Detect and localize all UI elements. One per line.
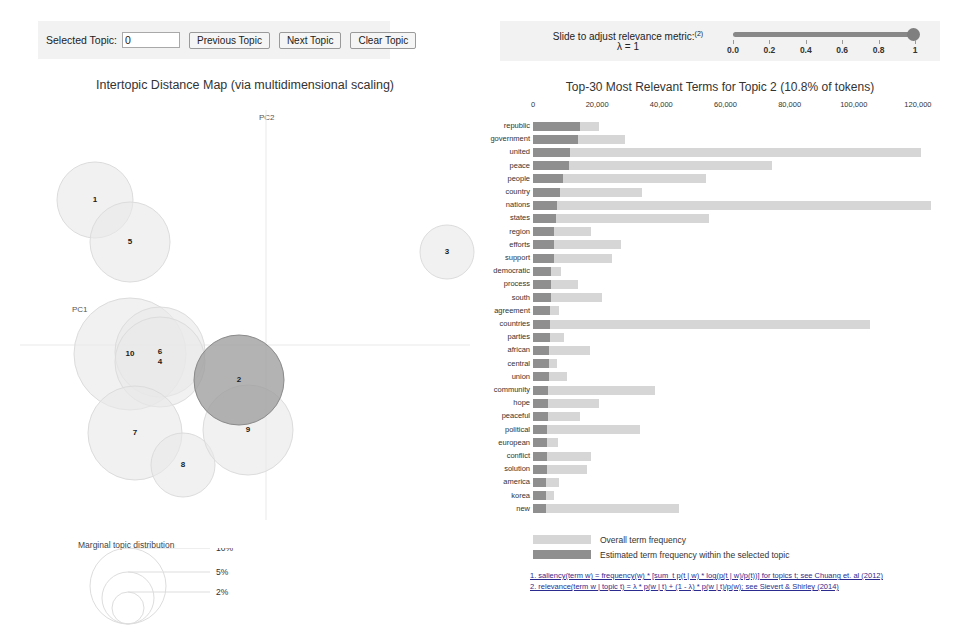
bar-row[interactable]: government [470,133,970,146]
lambda-tick-label: 0.2 [763,45,775,55]
bar-row[interactable]: european [470,437,970,450]
bar-row[interactable]: korea [470,490,970,503]
bar-term-label[interactable]: states [470,213,530,222]
bar-term-label[interactable]: korea [470,491,530,500]
bar-row[interactable]: region [470,226,970,239]
bar-row[interactable]: country [470,186,970,199]
next-topic-button[interactable]: Next Topic [279,32,342,49]
lambda-value-label: λ = 1 [528,41,728,52]
bar-term-label[interactable]: nations [470,200,530,209]
bar-row[interactable]: support [470,252,970,265]
bar-topic-frequency [533,425,547,434]
bar-topic-frequency [533,333,550,342]
bar-row[interactable]: people [470,173,970,186]
bar-term-label[interactable]: country [470,187,530,196]
bar-row[interactable]: hope [470,397,970,410]
marginal-label-10%: 10% [216,548,233,553]
selected-topic-input[interactable] [122,32,180,48]
bar-row[interactable]: union [470,371,970,384]
bar-term-label[interactable]: region [470,227,530,236]
bar-term-label[interactable]: new [470,504,530,513]
bar-term-label[interactable]: peace [470,161,530,170]
bar-row[interactable]: political [470,424,970,437]
bar-term-label[interactable]: people [470,174,530,183]
bar-term-label[interactable]: african [470,345,530,354]
bar-term-label[interactable]: republic [470,121,530,130]
bar-topic-frequency [533,399,548,408]
intertopic-distance-map[interactable]: 15106478923 [0,90,490,530]
bar-term-label[interactable]: process [470,279,530,288]
bar-term-label[interactable]: union [470,372,530,381]
bar-row[interactable]: america [470,476,970,489]
legend-row-selected: Estimated term frequency within the sele… [470,547,970,562]
bar-row[interactable]: conflict [470,450,970,463]
bar-row[interactable]: parties [470,331,970,344]
bar-term-label[interactable]: america [470,477,530,486]
clear-topic-button[interactable]: Clear Topic [350,32,416,49]
bar-row[interactable]: peace [470,160,970,173]
lambda-tick-mark [842,40,843,44]
bar-overall-frequency [533,425,640,434]
bar-row[interactable]: republic [470,120,970,133]
footnote-saliency[interactable]: 1. saliency(term w) = frequency(w) * [su… [530,570,960,581]
bar-row[interactable]: democratic [470,265,970,278]
marginal-distribution-legend: 2%5%10% [70,548,300,644]
bar-row[interactable]: united [470,146,970,159]
bar-row[interactable]: peaceful [470,410,970,423]
bar-term-label[interactable]: european [470,438,530,447]
bar-term-label[interactable]: conflict [470,451,530,460]
bar-row[interactable]: community [470,384,970,397]
bar-row[interactable]: agreement [470,305,970,318]
marginal-circle-2% [112,592,144,624]
legend-label-overall: Overall term frequency [600,535,686,545]
bar-topic-frequency [533,491,546,500]
bar-overall-frequency [533,148,921,157]
bar-term-label[interactable]: countries [470,319,530,328]
bar-term-label[interactable]: solution [470,464,530,473]
bar-row[interactable]: new [470,503,970,516]
bar-topic-frequency [533,214,556,223]
bar-row[interactable]: efforts [470,239,970,252]
topic-label-10: 10 [126,349,135,358]
bar-term-label[interactable]: peaceful [470,411,530,420]
bar-term-label[interactable]: agreement [470,306,530,315]
bar-term-label[interactable]: democratic [470,266,530,275]
bar-term-label[interactable]: community [470,385,530,394]
bar-row[interactable]: solution [470,463,970,476]
bar-row[interactable]: states [470,212,970,225]
x-tick-120,000: 120,000 [904,100,931,109]
x-tick-0: 0 [531,100,535,109]
bar-row[interactable]: south [470,292,970,305]
lambda-tick-mark [733,40,734,44]
bar-term-label[interactable]: parties [470,332,530,341]
bar-overall-frequency [533,504,679,513]
lambda-slider-track[interactable] [733,32,915,37]
bar-row[interactable]: process [470,278,970,291]
bar-row[interactable]: nations [470,199,970,212]
selected-topic-label: Selected Topic: [46,34,117,46]
bar-term-label[interactable]: hope [470,398,530,407]
bar-term-label[interactable]: government [470,134,530,143]
bar-topic-frequency [533,320,550,329]
bar-term-label[interactable]: south [470,293,530,302]
bar-row[interactable]: central [470,358,970,371]
bar-term-label[interactable]: efforts [470,240,530,249]
footnote-relevance[interactable]: 2. relevance(term w | topic t) = λ * p(w… [530,581,960,592]
bar-topic-frequency [533,359,549,368]
legend-label-selected: Estimated term frequency within the sele… [600,550,789,560]
lambda-slider[interactable]: 0.00.20.40.60.81 [725,26,930,58]
lambda-tick-label: 0.6 [836,45,848,55]
bar-row[interactable]: african [470,344,970,357]
bar-term-label[interactable]: political [470,425,530,434]
previous-topic-button[interactable]: Previous Topic [189,32,270,49]
topic-label-2: 2 [237,375,242,384]
barchart-rows[interactable]: republicgovernmentunitedpeacepeoplecount… [470,120,970,520]
bar-row[interactable]: countries [470,318,970,331]
bar-topic-frequency [533,504,546,513]
lambda-tick-mark [915,40,916,44]
bar-term-label[interactable]: central [470,359,530,368]
bar-term-label[interactable]: support [470,253,530,262]
bar-topic-frequency [533,386,548,395]
lambda-tick-mark [769,40,770,44]
bar-term-label[interactable]: united [470,147,530,156]
